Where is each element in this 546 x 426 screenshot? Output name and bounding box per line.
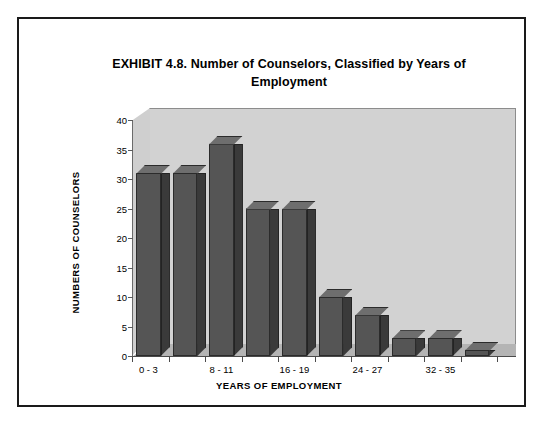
bar-front-face — [428, 338, 453, 356]
x-tick-mark — [242, 357, 243, 362]
bar-front-face — [392, 338, 417, 356]
y-tick-mark — [128, 268, 133, 269]
bar-front-face — [246, 209, 271, 357]
chart-title-line-1: EXHIBIT 4.8. Number of Counselors, Class… — [112, 57, 465, 71]
x-tick-label: 24 - 27 — [353, 364, 383, 375]
x-axis-title: YEARS OF EMPLOYMENT — [129, 380, 429, 391]
bar-front-face — [355, 315, 380, 356]
bar-side-face — [343, 297, 352, 356]
bar — [136, 173, 161, 356]
y-tick-label: 30 — [116, 174, 127, 185]
bar — [209, 144, 234, 356]
x-axis-line — [132, 356, 516, 357]
x-tick-mark — [169, 357, 170, 362]
chart-title-line-2: Employment — [251, 75, 327, 89]
y-tick-mark — [128, 327, 133, 328]
bar — [173, 173, 198, 356]
y-tick-mark — [128, 120, 133, 121]
y-tick-mark — [128, 238, 133, 239]
bar-front-face — [282, 209, 307, 357]
bar — [246, 209, 271, 357]
y-axis-title: NUMBERS OF COUNSELORS — [70, 143, 81, 343]
x-tick-mark — [315, 357, 316, 362]
bar-front-face — [209, 144, 234, 356]
bar-front-face — [136, 173, 161, 356]
y-tick-label: 40 — [116, 115, 127, 126]
bar — [319, 297, 344, 356]
bar — [392, 338, 417, 356]
bar-side-face — [270, 209, 279, 357]
bar — [282, 209, 307, 357]
x-tick-mark — [424, 357, 425, 362]
bar-front-face — [173, 173, 198, 356]
y-tick-mark — [128, 150, 133, 151]
bar-side-face — [197, 173, 206, 356]
y-tick-label: 10 — [116, 292, 127, 303]
bar — [465, 350, 490, 356]
x-tick-mark — [388, 357, 389, 362]
bar — [428, 338, 453, 356]
x-tick-label: 32 - 35 — [426, 364, 456, 375]
bar-front-face — [319, 297, 344, 356]
bar-side-face — [161, 173, 170, 356]
x-tick-mark — [132, 357, 133, 362]
bar-side-face — [307, 209, 316, 357]
document-border: EXHIBIT 4.8. Number of Counselors, Class… — [17, 17, 526, 407]
screenshot-page: EXHIBIT 4.8. Number of Counselors, Class… — [0, 0, 546, 426]
x-tick-mark — [278, 357, 279, 362]
bar-side-face — [234, 144, 243, 356]
x-tick-label: 16 - 19 — [280, 364, 310, 375]
y-tick-label: 25 — [116, 203, 127, 214]
y-tick-mark — [128, 209, 133, 210]
y-tick-mark — [128, 297, 133, 298]
x-tick-label: 0 - 3 — [139, 364, 158, 375]
x-tick-mark — [461, 357, 462, 362]
y-tick-mark — [128, 179, 133, 180]
plot-area: 0510152025303540 0 - 38 - 1116 - 1924 - … — [132, 108, 516, 356]
y-tick-label: 5 — [122, 321, 127, 332]
x-tick-mark — [351, 357, 352, 362]
y-tick-label: 35 — [116, 144, 127, 155]
y-tick-label: 15 — [116, 262, 127, 273]
x-tick-mark — [497, 357, 498, 362]
chart-title: EXHIBIT 4.8. Number of Counselors, Class… — [74, 55, 504, 91]
y-tick-label: 0 — [122, 351, 127, 362]
x-tick-mark — [205, 357, 206, 362]
y-tick-label: 20 — [116, 233, 127, 244]
bar — [355, 315, 380, 356]
x-tick-label: 8 - 11 — [210, 364, 234, 375]
